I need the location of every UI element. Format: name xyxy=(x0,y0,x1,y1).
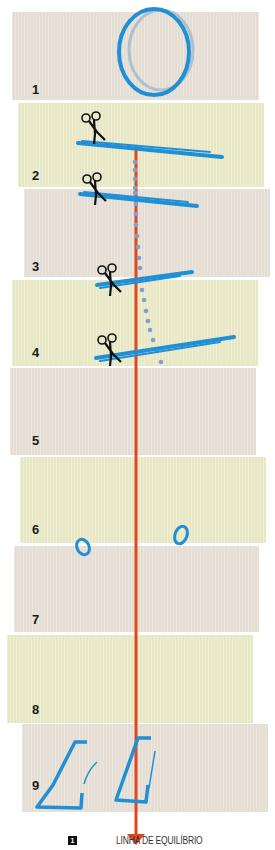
scissors-icon xyxy=(98,264,121,296)
scissors-icon xyxy=(82,112,105,144)
drawing-overlay xyxy=(0,0,275,850)
legend-label: LINHA DE EQUILÍBRIO xyxy=(116,835,203,846)
scissors-icon xyxy=(83,173,106,205)
cut-stroke xyxy=(78,141,234,361)
legend: 1 LINHA DE EQUILÍBRIO xyxy=(68,835,218,846)
circle-icon xyxy=(119,9,193,95)
small-loop-icon xyxy=(74,524,190,556)
legend-badge: 1 xyxy=(68,836,77,845)
